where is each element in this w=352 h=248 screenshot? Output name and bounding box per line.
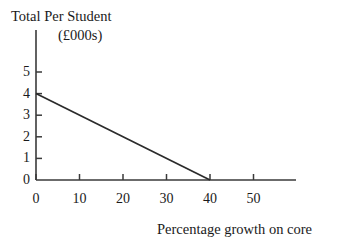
x-axis-ticks	[36, 174, 254, 180]
y-axis-tick-label: 0	[14, 173, 30, 187]
y-axis-tick-label: 2	[14, 130, 30, 144]
x-axis-tick-label: 30	[155, 192, 179, 206]
plot-area	[0, 0, 352, 248]
y-axis-tick-label: 5	[14, 65, 30, 79]
x-axis-tick-label: 10	[68, 192, 92, 206]
x-axis-tick-label: 20	[111, 192, 135, 206]
data-series-lines	[36, 94, 210, 180]
y-axis-tick-label: 1	[14, 151, 30, 165]
y-axis-tick-label: 4	[14, 87, 30, 101]
x-axis-tick-label: 40	[198, 192, 222, 206]
x-axis-tick-label: 50	[242, 192, 266, 206]
x-axis-tick-label: 0	[24, 192, 48, 206]
chart-figure: Total Per Student (£000s) Percentage gro…	[0, 0, 352, 248]
series-line	[36, 94, 210, 180]
y-axis-ticks	[36, 72, 42, 158]
y-axis-tick-label: 3	[14, 108, 30, 122]
